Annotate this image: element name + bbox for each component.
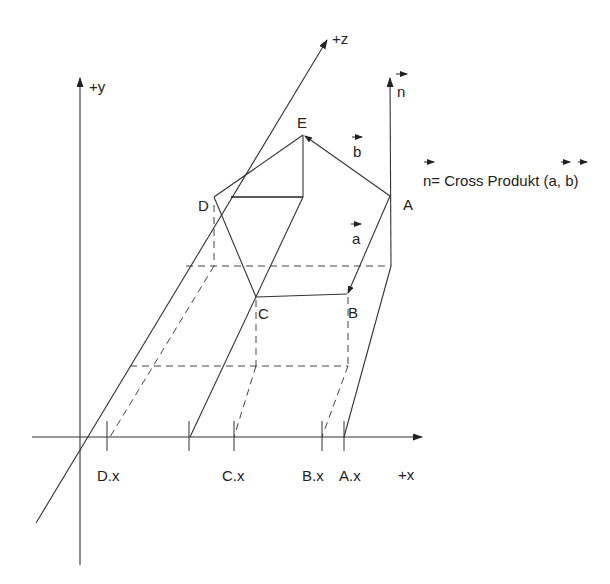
point-label-d: D <box>198 197 209 214</box>
vector-label-b: b <box>352 137 362 160</box>
polygon-edges <box>190 135 391 437</box>
cross-product-formula: n= Cross Produkt (a, b) <box>423 162 587 189</box>
svg-text:n= Cross Produkt (a, b): n= Cross Produkt (a, b) <box>423 172 579 189</box>
formula-close: ) <box>574 172 579 189</box>
tick-label-ax: A.x <box>339 467 361 484</box>
tick-label-bx: B.x <box>302 467 324 484</box>
svg-text:a: a <box>352 230 361 247</box>
point-label-c: C <box>258 305 269 322</box>
x-axis-label: +x <box>398 466 415 483</box>
point-label-a: A <box>403 196 413 213</box>
z-axis-label: +z <box>332 30 348 47</box>
formula-n: n <box>423 172 431 189</box>
projection-lines <box>110 205 391 437</box>
formula-sep: , <box>557 172 565 189</box>
diagram-canvas: +y +x +z D.x C.x B.x A.x E A D C B n b a… <box>0 0 610 584</box>
tick-label-cx: C.x <box>222 467 245 484</box>
svg-text:n: n <box>397 83 405 100</box>
vector-label-n-top: n <box>396 74 407 100</box>
formula-arg-b: b <box>565 172 573 189</box>
tick-label-dx: D.x <box>97 467 120 484</box>
x-axis-ticks <box>107 421 344 451</box>
normal-vector-n <box>390 78 391 266</box>
y-axis-label: +y <box>89 78 106 95</box>
point-label-e: E <box>297 114 307 131</box>
point-label-b: B <box>348 304 358 321</box>
formula-text: = Cross Produkt ( <box>431 172 548 189</box>
vector-label-a: a <box>351 224 361 247</box>
svg-text:b: b <box>353 143 361 160</box>
